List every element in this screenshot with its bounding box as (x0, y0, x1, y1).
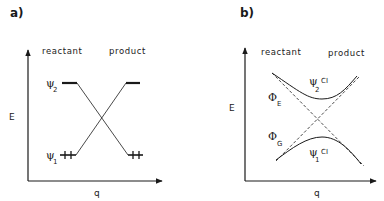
y-axis-label: E (9, 112, 15, 122)
panel-a-label: a) (10, 6, 24, 20)
svg-text:2: 2 (315, 86, 319, 94)
psi2-ci-label: ψ 2 CI (309, 75, 328, 94)
svg-text:G: G (277, 140, 282, 148)
svg-text:Φ: Φ (268, 130, 277, 143)
svg-text:1: 1 (315, 156, 319, 164)
psi1-ci-label: ψ 1 CI (309, 146, 328, 164)
svg-text:CI: CI (321, 77, 328, 85)
svg-text:E: E (277, 100, 281, 108)
panel-b: b) E q reactant product ψ 2 CI ψ 1 CI Φ … (229, 6, 376, 198)
correlation-line-descending (77, 83, 128, 155)
phi-g-label: Φ G (268, 130, 282, 148)
x-axis-label: q (94, 188, 100, 198)
figure-canvas: a) E q reactant product ψ 2 ψ (0, 0, 384, 201)
svg-text:Φ: Φ (268, 91, 277, 104)
y-axis-label: E (229, 103, 235, 113)
product-label: product (109, 46, 146, 56)
psi2-label: ψ 2 (46, 77, 57, 94)
svg-text:1: 1 (53, 158, 57, 166)
panel-a: a) E q reactant product ψ 2 ψ (9, 6, 162, 198)
panel-b-label: b) (240, 6, 254, 20)
svg-text:2: 2 (53, 86, 57, 94)
reactant-label: reactant (261, 47, 302, 57)
x-axis-label: q (314, 188, 320, 198)
product-label: product (328, 48, 365, 58)
correlation-line-ascending (76, 83, 126, 155)
phi-e-label: Φ E (268, 91, 281, 108)
reactant-label: reactant (42, 46, 83, 56)
svg-text:CI: CI (321, 148, 328, 156)
psi1-label: ψ 1 (46, 149, 57, 166)
